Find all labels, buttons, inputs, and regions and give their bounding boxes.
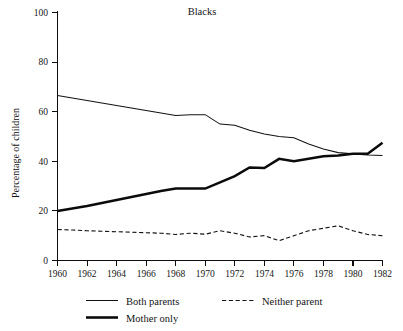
x-tick-label-1962: 1962 [78,269,97,279]
x-tick-label-1972: 1972 [225,269,244,279]
x-tick-label-1976: 1976 [284,269,303,279]
x-axis-ticks [58,261,383,267]
x-tick-label-1970: 1970 [196,269,215,279]
y-axis-title: Percentage of children [10,108,21,198]
series-mother-only [58,143,383,211]
legend-label-neither-parent: Neither parent [262,296,322,307]
y-tick-label-100: 100 [34,8,49,18]
x-tick-label-1960: 1960 [48,269,67,279]
x-tick-label-1968: 1968 [166,269,185,279]
x-tick-label-1974: 1974 [255,269,274,279]
x-tick-label-1964: 1964 [107,269,126,279]
y-axis-ticks [52,13,58,261]
x-tick-label-1966: 1966 [137,269,156,279]
chart-title: Blacks [188,6,217,17]
y-tick-label-0: 0 [43,256,48,266]
y-tick-label-60: 60 [39,107,49,117]
legend-label-mother-only: Mother only [126,313,179,324]
y-tick-label-20: 20 [39,206,49,216]
x-tick-label-1978: 1978 [314,269,333,279]
x-tick-label-1982: 1982 [373,269,392,279]
legend-label-both-parents: Both parents [126,296,179,307]
line-chart: Percentage of children Blacks 0 20 40 60… [0,0,403,331]
series-neither-parent [58,226,383,241]
y-axis-tick-labels: 0 20 40 60 80 100 [34,8,49,266]
x-tick-label-1980: 1980 [344,269,363,279]
figure-container: Percentage of children Blacks 0 20 40 60… [0,0,403,331]
legend: Both parents Neither parent Mother only [86,296,322,324]
y-tick-label-40: 40 [39,157,49,167]
y-tick-label-80: 80 [39,57,49,67]
x-axis-tick-labels: 1960 1962 1964 1966 1968 1970 1972 1974 … [48,269,392,279]
series-both-parents [58,96,383,156]
